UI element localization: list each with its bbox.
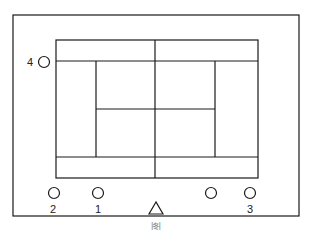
figure-caption: 图 <box>0 222 312 230</box>
player-3-circle-icon <box>245 188 256 199</box>
tennis-court <box>56 40 258 178</box>
player-1-circle-icon <box>93 188 104 199</box>
player-4-label: 4 <box>27 57 33 68</box>
player-3-label: 3 <box>247 204 253 215</box>
player-unlabeled-circle-icon <box>206 188 217 199</box>
marker-triangle-icon <box>149 202 163 214</box>
player-2-label: 2 <box>50 204 56 215</box>
player-1-label: 1 <box>95 204 101 215</box>
player-2-circle-icon <box>49 188 60 199</box>
diagram-canvas <box>0 0 312 230</box>
player-4-circle-icon <box>39 57 50 68</box>
